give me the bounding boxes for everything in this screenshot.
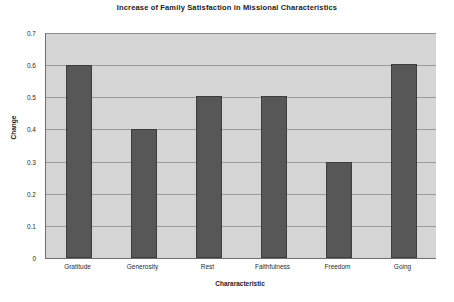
y-axis-tick-label: 0.2 bbox=[27, 190, 36, 197]
x-axis-tick-label: Gratitude bbox=[64, 263, 91, 270]
bar-slot bbox=[176, 33, 241, 258]
bar-slot bbox=[46, 33, 111, 258]
y-axis-tick-label: 0.4 bbox=[27, 126, 36, 133]
bar-slot bbox=[371, 33, 436, 258]
bar[interactable] bbox=[131, 129, 157, 258]
bar[interactable] bbox=[261, 96, 287, 258]
y-axis-tick-label: 0 bbox=[32, 255, 36, 262]
chart-title: Increase of Family Satisfaction in Missi… bbox=[0, 3, 454, 12]
y-axis-tick-label: 0.1 bbox=[27, 222, 36, 229]
x-axis-tick-label: Faithfulness bbox=[255, 263, 290, 270]
y-axis-tick-label: 0.3 bbox=[27, 158, 36, 165]
bar[interactable] bbox=[66, 65, 92, 258]
bar[interactable] bbox=[391, 64, 417, 258]
x-axis-tick-label: Generosity bbox=[127, 263, 158, 270]
x-axis-title: Chararacteristic bbox=[45, 280, 435, 287]
bar-slot bbox=[241, 33, 306, 258]
y-axis-tick-label: 0.5 bbox=[27, 94, 36, 101]
bar[interactable] bbox=[326, 162, 352, 258]
x-axis-tick-label: Rest bbox=[201, 263, 214, 270]
plot-area bbox=[45, 33, 436, 259]
bar[interactable] bbox=[196, 96, 222, 258]
bar-slot bbox=[111, 33, 176, 258]
bar-chart-figure: Increase of Family Satisfaction in Missi… bbox=[0, 0, 454, 302]
x-axis-tick-labels: GratitudeGenerosityRestFaithfulnessFreed… bbox=[45, 263, 435, 277]
bar-slot bbox=[306, 33, 371, 258]
x-axis-tick-label: Going bbox=[394, 263, 411, 270]
x-axis-tick-label: Freedom bbox=[324, 263, 350, 270]
bars-layer bbox=[46, 33, 436, 258]
y-axis-tick-label: 0.6 bbox=[27, 62, 36, 69]
y-axis-tick-labels: 0.70.60.50.40.30.20.10 bbox=[0, 33, 41, 259]
y-axis-tick-label: 0.7 bbox=[27, 30, 36, 37]
